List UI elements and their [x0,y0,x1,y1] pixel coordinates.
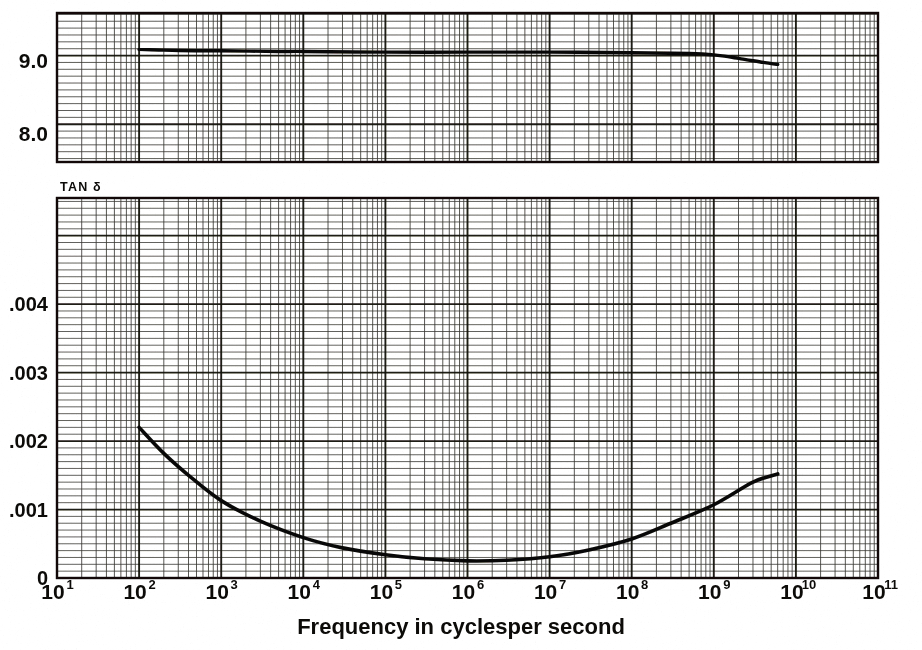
x-tick-mantissa: 10 [780,580,803,603]
x-tick-mantissa: 10 [123,580,146,603]
x-tick-mantissa: 10 [616,580,639,603]
x-axis-caption: Frequency in cyclesper second [297,614,625,639]
top-ytick-8: 8.0 [19,122,48,145]
x-tick-exponent: 2 [148,577,155,592]
figure-canvas: 9.0 8.0 TAN δ .004.003.002.0010 10110210… [0,0,922,650]
top-ytick-9: 9.0 [19,49,48,72]
x-tick-mantissa: 10 [534,580,557,603]
tan-delta-panel-tag: TAN δ [60,180,102,194]
x-tick-mantissa: 10 [698,580,721,603]
scanned-graph-figure: 9.0 8.0 TAN δ .004.003.002.0010 10110210… [0,0,922,650]
x-tick-exponent: 8 [641,577,648,592]
x-tick-exponent: 5 [395,577,402,592]
bottom-ytick-label: .001 [9,499,48,521]
x-tick-exponent: 7 [559,577,566,592]
x-tick-mantissa: 10 [370,580,393,603]
tan-delta-panel: .004.003.002.0010 [9,198,878,589]
x-tick-mantissa: 10 [206,580,229,603]
x-tick-exponent: 4 [313,577,321,592]
x-tick-exponent: 11 [884,577,898,592]
x-tick-exponent: 1 [66,577,73,592]
x-tick-exponent: 10 [802,577,816,592]
x-tick-exponent: 3 [231,577,238,592]
bottom-ytick-label: .002 [9,430,48,452]
x-tick-mantissa: 10 [41,580,64,603]
x-tick-mantissa: 10 [288,580,311,603]
bottom-ytick-label: .004 [9,293,49,315]
bottom-ytick-label: .003 [9,362,48,384]
x-tick-mantissa: 10 [452,580,475,603]
x-tick-exponent: 6 [477,577,484,592]
x-tick-exponent: 9 [723,577,730,592]
x-tick-mantissa: 10 [862,580,885,603]
